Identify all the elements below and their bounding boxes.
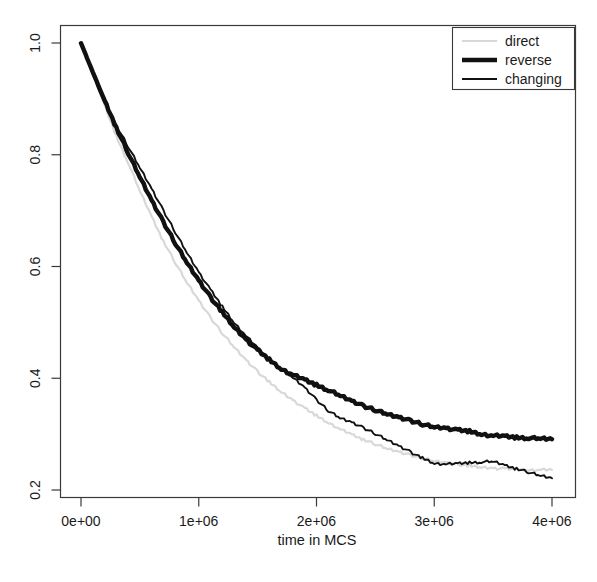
x-tick-label: 1e+06	[179, 513, 219, 529]
x-tick-label: 3e+06	[415, 513, 455, 529]
legend-label-reverse: reverse	[505, 52, 552, 68]
y-tick-label: 0.6	[27, 257, 43, 277]
legend-label-changing: changing	[505, 71, 562, 87]
x-axis-title: time in MCS	[278, 532, 357, 548]
y-tick-label: 0.2	[27, 480, 43, 500]
decay-curves-chart: 0e+001e+062e+063e+064e+06 0.20.40.60.81.…	[0, 0, 597, 582]
x-tick-label: 0e+00	[61, 513, 101, 529]
y-tick-label: 0.4	[27, 368, 43, 388]
chart-page: 0e+001e+062e+063e+064e+06 0.20.40.60.81.…	[0, 0, 597, 582]
y-tick-label: 1.0	[27, 33, 43, 53]
chart-legend: directreversechanging	[453, 28, 575, 90]
x-tick-label: 2e+06	[297, 513, 337, 529]
x-tick-label: 4e+06	[532, 513, 572, 529]
legend-label-direct: direct	[505, 33, 539, 49]
y-tick-label: 0.8	[27, 145, 43, 165]
